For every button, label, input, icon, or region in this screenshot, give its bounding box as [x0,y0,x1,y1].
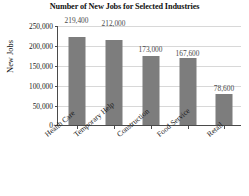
y-tick-label: 200,000 [29,43,53,50]
y-tick-label: 250,000 [29,23,53,30]
x-axis-tick-labels: Health Care Temporary Help Construction … [57,130,241,192]
x-tick-mark [188,126,189,129]
bar-value-label: 78,600 [214,85,234,92]
bar-value-label: 212,000 [101,20,125,27]
y-tick-label: 100,000 [29,83,53,90]
y-tick-label: 50,000 [33,103,53,110]
bar-value-label: 167,600 [175,50,199,57]
bar-value-label: 173,000 [138,46,162,53]
bar-chart: Number of New Jobs for Selected Industri… [0,0,249,196]
bar-group: 173,000 [132,26,169,125]
bar-value-label: 219,400 [64,17,88,24]
y-axis-tick-labels: 250,000 200,000 150,000 100,000 50,000 0 [8,26,53,126]
chart-title: Number of New Jobs for Selected Industri… [0,2,249,11]
y-tick-label: 150,000 [29,63,53,70]
x-tick-mark [114,126,115,129]
bar-group: 78,600 [206,26,242,125]
x-tick-mark [151,126,152,129]
bar-group: 219,400 [58,26,95,125]
